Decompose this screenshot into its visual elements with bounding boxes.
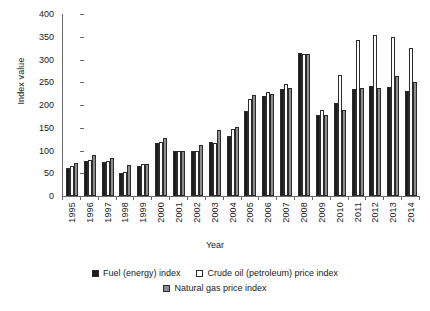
x-tick-mark [241, 196, 242, 200]
x-tick-mark [169, 196, 170, 200]
bar [163, 138, 167, 196]
bar-group [402, 14, 420, 196]
x-tick-label: 2014 [406, 202, 416, 223]
x-tick-mark [98, 196, 99, 200]
y-tick-label: 300 [39, 55, 54, 65]
bar [217, 130, 221, 196]
bar-group [117, 14, 135, 196]
x-axis-title: Year [0, 240, 430, 250]
y-tick-label: 200 [39, 100, 54, 110]
open-white-square-icon [196, 270, 203, 277]
x-tick-mark [276, 196, 277, 200]
x-tick-label: 2000 [156, 202, 166, 223]
filled-gray-square-icon [163, 285, 170, 292]
x-tick-label: 1995 [67, 202, 77, 223]
bar-group [366, 14, 384, 196]
x-tick-label: 2005 [245, 202, 255, 223]
x-tick-mark [205, 196, 206, 200]
bar [377, 88, 381, 196]
x-tick-label: 2011 [353, 202, 363, 222]
x-tick-mark [116, 196, 117, 200]
bar [199, 145, 203, 196]
x-tick-mark [383, 196, 384, 200]
legend-label: Fuel (energy) index [103, 266, 181, 281]
x-axis-ticks [62, 196, 420, 201]
x-tick-label: 2003 [210, 202, 220, 223]
bar-group [170, 14, 188, 196]
y-tick-label: 250 [39, 77, 54, 87]
x-tick-mark [133, 196, 134, 200]
y-tick-label: 350 [39, 32, 54, 42]
x-tick-label: 2002 [192, 202, 202, 223]
bar [181, 151, 185, 196]
bar [324, 115, 328, 196]
x-tick-label: 1997 [103, 202, 113, 223]
x-tick-mark [151, 196, 152, 200]
bar-group [81, 14, 99, 196]
x-tick-label: 2006 [263, 202, 273, 223]
bar-group [99, 14, 117, 196]
x-tick-label: 1996 [85, 202, 95, 223]
bar-group [224, 14, 242, 196]
bar-group [277, 14, 295, 196]
x-tick-label: 1998 [120, 202, 130, 223]
filled-black-square-icon [92, 270, 99, 277]
x-tick-label: 2012 [370, 202, 380, 223]
x-tick-mark [348, 196, 349, 200]
x-tick-label: 2007 [281, 202, 291, 223]
bar-group [349, 14, 367, 196]
y-tick-label: 50 [44, 168, 54, 178]
bar [413, 82, 417, 196]
x-tick-label: 2004 [228, 202, 238, 223]
x-tick-mark [419, 196, 420, 200]
bar-group [152, 14, 170, 196]
bar [395, 76, 399, 196]
x-tick-label: 2010 [335, 202, 345, 223]
bar [145, 164, 149, 196]
y-tick-label: 0 [49, 191, 54, 201]
bar [360, 88, 364, 196]
x-tick-label: 2013 [388, 202, 398, 223]
legend-label: Crude oil (petroleum) price index [207, 266, 338, 281]
bar-group [384, 14, 402, 196]
bar [110, 158, 114, 196]
bar [235, 127, 239, 196]
legend-label: Natural gas price index [174, 281, 266, 296]
x-tick-label: 1999 [138, 202, 148, 223]
bar-group [331, 14, 349, 196]
y-tick-label: 150 [39, 123, 54, 133]
bar [288, 88, 292, 196]
y-tick-label: 400 [39, 9, 54, 19]
bar-group [63, 14, 81, 196]
bar-group [188, 14, 206, 196]
x-tick-mark [187, 196, 188, 200]
x-axis-labels: 1995199619971998199920002001200220032004… [63, 202, 420, 236]
bar [306, 54, 310, 196]
bar [342, 110, 346, 196]
x-tick-mark [62, 196, 63, 200]
legend-item-fuel-energy-index: Fuel (energy) index [92, 266, 181, 281]
y-axis-ticks: 400350300250200150100500 [22, 10, 60, 202]
bar [92, 155, 96, 196]
x-tick-mark [258, 196, 259, 200]
bar-group [313, 14, 331, 196]
legend-item-crude-oil-price-index: Crude oil (petroleum) price index [196, 266, 338, 281]
legend-row-2: Natural gas price index [0, 281, 430, 296]
bar [270, 94, 274, 196]
bar-group [242, 14, 260, 196]
x-tick-label: 2001 [174, 202, 184, 223]
x-tick-mark [365, 196, 366, 200]
x-tick-mark [330, 196, 331, 200]
bar-group [134, 14, 152, 196]
x-tick-mark [80, 196, 81, 200]
x-tick-label: 2009 [317, 202, 327, 223]
bar-group [206, 14, 224, 196]
chart-legend: Fuel (energy) index Crude oil (petroleum… [0, 266, 430, 296]
x-tick-label: 2008 [299, 202, 309, 223]
bar [127, 165, 131, 196]
x-tick-mark [401, 196, 402, 200]
bar [252, 95, 256, 196]
x-tick-mark [312, 196, 313, 200]
plot-area [63, 14, 420, 196]
y-tick-label: 100 [39, 146, 54, 156]
